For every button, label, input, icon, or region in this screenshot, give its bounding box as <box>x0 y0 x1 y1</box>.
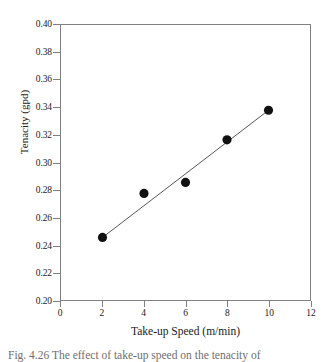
x-tick-label: 4 <box>129 308 159 319</box>
x-tick-label: 6 <box>171 308 201 319</box>
x-tick-mark <box>144 301 145 307</box>
x-tick-label: 12 <box>296 308 326 319</box>
x-tick-mark <box>60 301 61 307</box>
x-tick-label: 8 <box>212 308 242 319</box>
x-tick-mark <box>102 301 103 307</box>
x-axis-title: Take-up Speed (m/min) <box>60 325 311 338</box>
x-tick-label: 10 <box>254 308 284 319</box>
x-tick-mark <box>186 301 187 307</box>
x-tick-label: 2 <box>87 308 117 319</box>
x-tick-mark <box>269 301 270 307</box>
figure-caption: Fig. 4.26 The effect of take-up speed on… <box>8 349 323 362</box>
x-tick-label: 0 <box>45 308 75 319</box>
x-tick-mark <box>311 301 312 307</box>
x-tick-mark <box>227 301 228 307</box>
